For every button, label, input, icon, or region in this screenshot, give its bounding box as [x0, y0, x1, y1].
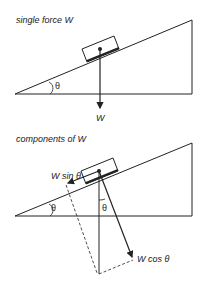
bottom-diagram: components of W θ θ W sin θ W cos θ: [15, 134, 192, 274]
w-cos-arrow: [99, 171, 132, 257]
w-sin-label: W sin θ: [51, 171, 81, 181]
top-title: single force W: [16, 15, 75, 25]
top-diagram: single force W θ W: [15, 15, 192, 123]
bottom-title: components of W: [16, 134, 88, 144]
theta-label: θ: [55, 81, 60, 91]
theta-mid: θ: [102, 203, 107, 213]
w-cos-label: W cos θ: [137, 254, 170, 264]
incline-triangle: [15, 20, 192, 94]
inclined-plane-diagram: single force W θ W components of W θ θ W…: [0, 0, 203, 284]
theta-left: θ: [51, 203, 56, 213]
weight-label: W: [96, 113, 106, 123]
